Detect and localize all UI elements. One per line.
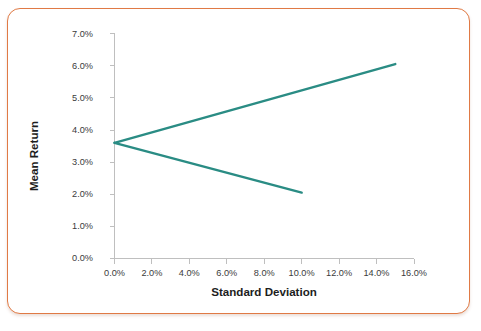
x-tick-label: 10.0% (289, 268, 315, 278)
y-tick-label: 2.0% (72, 189, 93, 199)
chart-inner-area: Mean Return 7.0% 6.0% 5.0% 4.0% 3.0% 2.0… (8, 9, 471, 315)
x-tick-label: 16.0% (401, 268, 427, 278)
x-axis-title: Standard Deviation (211, 285, 317, 298)
y-tick-label: 0.0% (72, 253, 93, 263)
y-tick-label: 3.0% (72, 157, 93, 167)
y-tick-label: 6.0% (72, 61, 93, 71)
y-tick-label: 5.0% (72, 93, 93, 103)
x-tick-label: 0.0% (104, 268, 125, 278)
x-axis-tick-marks (115, 259, 415, 264)
y-axis-tick-marks (110, 34, 115, 259)
data-line-efficient-frontier-lower (115, 143, 302, 193)
y-axis-tick-labels: 7.0% 6.0% 5.0% 4.0% 3.0% 2.0% 1.0% 0.0% (72, 29, 93, 264)
x-tick-label: 6.0% (216, 268, 237, 278)
x-axis-tick-labels: 0.0% 2.0% 4.0% 6.0% 8.0% 10.0% 12.0% 14.… (104, 268, 427, 278)
chart-frame-border: Mean Return 7.0% 6.0% 5.0% 4.0% 3.0% 2.0… (7, 8, 470, 314)
y-tick-label: 1.0% (72, 221, 93, 231)
y-axis-title: Mean Return (27, 121, 40, 191)
x-tick-label: 14.0% (363, 268, 389, 278)
x-tick-label: 12.0% (326, 268, 352, 278)
x-tick-label: 4.0% (179, 268, 200, 278)
y-tick-label: 7.0% (72, 29, 93, 39)
data-series-group (115, 64, 396, 193)
data-line-efficient-frontier-upper (115, 64, 396, 143)
y-tick-label: 4.0% (72, 125, 93, 135)
x-tick-label: 2.0% (141, 268, 162, 278)
chart-plot-svg: Mean Return 7.0% 6.0% 5.0% 4.0% 3.0% 2.0… (8, 9, 471, 315)
figure-root: Mean Return 7.0% 6.0% 5.0% 4.0% 3.0% 2.0… (0, 0, 481, 331)
x-tick-label: 8.0% (254, 268, 275, 278)
